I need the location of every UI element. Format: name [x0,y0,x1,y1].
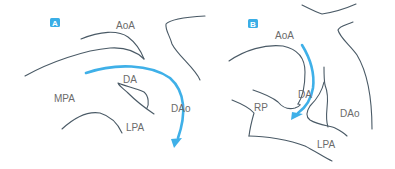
panel-a-badge: A [50,18,60,28]
aortic-arch-inner-outline [81,32,144,59]
label-lpa-b: LPA [317,139,335,150]
label-da-a: DA [123,74,137,85]
label-rp-b: RP [254,102,268,113]
flow-arrowhead-b [291,112,303,120]
top-outline [302,4,356,14]
flow-arrowhead-a [171,138,182,148]
label-lpa-a: LPA [126,122,144,133]
da-wall-outline [324,67,328,127]
label-aoa-a: AoA [116,20,135,31]
panel-b-badge: B [248,19,258,29]
lpa-outline [62,113,122,133]
label-aoa-b: AoA [275,30,294,41]
panel-b: B AoA DA RP DAo LPA [229,4,372,161]
panel-a: A AoA DA MPA DAo LPA [25,16,205,148]
ductus-arteriosus-outline [118,83,154,114]
label-da-b: DA [298,89,312,100]
descending-aorta-outline [166,16,205,80]
label-dao-b: DAo [340,108,360,119]
panel-b-badge-label: B [250,20,256,29]
rp-outline [232,100,254,136]
label-dao-a: DAo [171,103,191,114]
aortic-arch-outer-outline [25,48,144,76]
label-mpa-a: MPA [54,93,75,104]
diagram-canvas: A AoA DA MPA DAo LPA B [0,0,395,169]
panel-a-badge-label: A [52,19,58,28]
